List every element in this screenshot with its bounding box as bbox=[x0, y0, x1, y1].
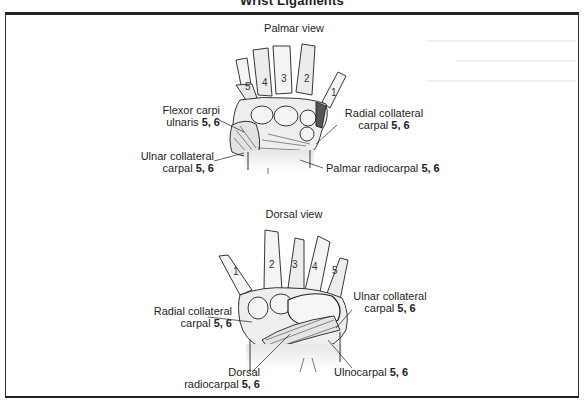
label-palmar-radiocarpal: Palmar radiocarpal 5, 6 bbox=[326, 162, 466, 174]
dorsal-digit-3: 3 bbox=[292, 259, 298, 270]
dorsal-view-title: Dorsal view bbox=[234, 208, 354, 220]
dorsal-hand-drawing bbox=[219, 230, 348, 372]
label-dorsal-radial-collateral-carpal: Radial collateral carpal 5, 6 bbox=[132, 305, 232, 329]
label-dorsal-radiocarpal: Dorsal radiocarpal 5, 6 bbox=[170, 366, 260, 390]
palmar-digit-2: 2 bbox=[304, 73, 310, 84]
label-ulnocarpal: Ulnocarpal 5, 6 bbox=[334, 366, 434, 378]
label-palmar-radial-collateral-carpal: Radial collateral carpal 5, 6 bbox=[334, 107, 434, 131]
palmar-view-title: Palmar view bbox=[234, 22, 354, 34]
dorsal-digit-4: 4 bbox=[312, 261, 318, 272]
label-dorsal-ulnar-collateral-carpal: Ulnar collateral carpal 5, 6 bbox=[340, 290, 440, 314]
palmar-digit-3: 3 bbox=[281, 73, 287, 84]
dorsal-digit-5: 5 bbox=[332, 265, 338, 276]
wrist-illustration: 5 4 3 2 1 1 2 3 4 5 bbox=[0, 0, 584, 403]
palmar-digit-1: 1 bbox=[331, 87, 337, 98]
dorsal-digit-2: 2 bbox=[269, 259, 275, 270]
palmar-digit-4: 4 bbox=[262, 77, 268, 88]
palmar-hand-drawing bbox=[230, 44, 346, 174]
label-palmar-ulnar-collateral-carpal: Ulnar collateral carpal 5, 6 bbox=[114, 150, 214, 174]
dorsal-digit-1: 1 bbox=[233, 266, 239, 277]
label-flexor-carpi-ulnaris: Flexor carpi ulnaris 5, 6 bbox=[140, 104, 220, 128]
palmar-digit-5: 5 bbox=[245, 81, 251, 92]
